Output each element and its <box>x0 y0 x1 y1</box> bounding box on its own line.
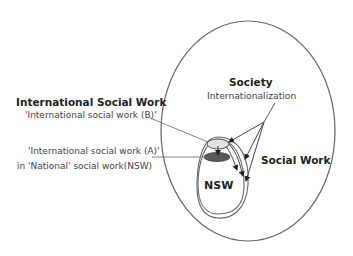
nsw-label: NSW <box>204 180 233 191</box>
society-label: Society <box>229 77 273 88</box>
internationalization-leader <box>264 103 275 122</box>
isw-a-ellipse <box>204 153 230 162</box>
isw-a-label: 'International social work (A)' <box>28 147 160 156</box>
isw-b-label: 'International social work (B)' <box>25 111 157 120</box>
internationalization-label: Internationalization <box>207 91 296 100</box>
international-social-work-title: International Social Work <box>16 97 166 108</box>
social-work-label: Social Work <box>261 155 331 166</box>
nsw-loop <box>198 139 244 214</box>
isw-a-label-line2: in 'National' social work(NSW) <box>17 162 152 171</box>
leader-line-b <box>150 118 208 142</box>
diagram-graphics <box>0 0 353 256</box>
diagram-canvas: International Social Work 'International… <box>0 0 353 256</box>
social-work-loop <box>197 137 248 218</box>
